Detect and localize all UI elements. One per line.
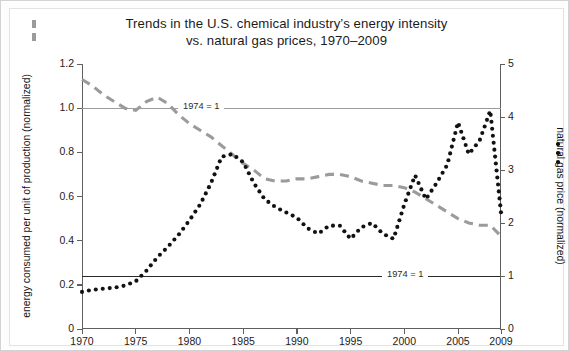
chart-figure: Trends in the U.S. chemical industry’s e… — [0, 0, 569, 351]
gas-price-data-point — [94, 287, 98, 291]
bottom-tick-label: 1990 — [272, 335, 322, 347]
gas-price-data-point — [149, 263, 153, 267]
gas-price-data-point — [101, 287, 105, 291]
right-tick-mark — [500, 64, 505, 65]
bottom-tick-mark — [243, 329, 244, 334]
gas-price-data-point — [144, 269, 148, 273]
bottom-tick-mark — [82, 329, 83, 334]
left-tick-mark — [77, 108, 82, 109]
gas-price-data-point — [361, 224, 365, 228]
gas-price-data-point — [247, 171, 251, 175]
gas-price-data-point — [325, 225, 329, 229]
gas-price-data-point — [444, 165, 448, 169]
gas-price-data-point — [448, 151, 452, 155]
gas-price-data-point — [483, 124, 487, 128]
right-tick-label: 5 — [508, 57, 548, 69]
gas-price-data-point — [414, 175, 418, 179]
gas-price-data-point — [404, 198, 408, 202]
right-axis-title: natural gas price (normalized) — [555, 127, 566, 264]
gas-price-data-point — [494, 162, 498, 166]
gas-price-data-point — [207, 185, 211, 189]
gas-price-data-point — [139, 274, 143, 278]
gas-price-data-point — [492, 141, 496, 145]
gas-price-data-point — [204, 191, 208, 195]
gas-price-data-point — [433, 183, 437, 187]
left-tick-mark — [77, 196, 82, 197]
gas-price-data-point — [319, 230, 323, 234]
gas-price-data-point — [218, 159, 222, 163]
gas-price-data-point — [313, 230, 317, 234]
gas-price-data-point — [419, 187, 423, 191]
right-tick-label: 3 — [508, 163, 548, 175]
gas-price-data-point — [266, 200, 270, 204]
gas-price-data-point — [464, 143, 468, 147]
gas-price-data-point — [498, 203, 502, 207]
chart-title: Trends in the U.S. chemical industry’s e… — [10, 15, 563, 49]
gas-price-data-point — [250, 177, 254, 181]
gas-price-data-point — [489, 113, 493, 117]
bottom-tick-mark — [501, 329, 502, 334]
gas-price-data-point — [495, 168, 499, 172]
gas-price-data-point — [244, 165, 248, 169]
gas-price-data-point — [272, 204, 276, 208]
gas-price-data-point — [108, 286, 112, 290]
gas-price-data-point — [121, 284, 125, 288]
gas-price-data-point — [497, 196, 501, 200]
gas-price-data-point — [368, 222, 372, 226]
gas-price-data-point — [384, 233, 388, 237]
gas-price-data-point — [172, 238, 176, 242]
gas-price-data-point — [493, 155, 497, 159]
bottom-tick-mark — [135, 329, 136, 334]
right-tick-label: 2 — [508, 216, 548, 228]
gas-price-data-point — [499, 210, 503, 214]
gas-price-data-point — [491, 134, 495, 138]
gas-price-data-point — [215, 166, 219, 170]
right-tick-mark — [500, 223, 505, 224]
gas-price-data-point — [378, 229, 382, 233]
gas-price-data-point — [338, 224, 342, 228]
gas-price-data-point — [261, 195, 265, 199]
gas-price-data-point — [497, 189, 501, 193]
gas-price-data-point — [115, 285, 119, 289]
gas-price-data-point — [168, 243, 172, 247]
right-tick-label: 0 — [508, 322, 548, 334]
gas-price-data-point — [478, 138, 482, 142]
right-tick-mark — [500, 276, 505, 277]
gas-price-data-point — [234, 155, 238, 159]
gas-price-data-point — [181, 227, 185, 231]
gas-price-data-point — [342, 229, 346, 233]
right-tick-label: 1 — [508, 269, 548, 281]
bottom-tick-mark — [350, 329, 351, 334]
left-tick-mark — [77, 64, 82, 65]
gas-price-data-point — [189, 215, 193, 219]
series-energy-intensity — [82, 79, 501, 236]
left-tick-label: 0 — [34, 322, 74, 334]
bottom-tick-label: 2000 — [379, 335, 429, 347]
bottom-tick-label: 1970 — [57, 335, 107, 347]
gas-price-data-point — [307, 227, 311, 231]
gas-price-data-point — [450, 145, 454, 149]
bottom-tick-label: 1975 — [111, 335, 161, 347]
gas-price-data-point — [240, 159, 244, 163]
gas-price-data-point — [284, 210, 288, 214]
gas-price-data-point — [485, 118, 489, 122]
plot-area: 1974 = 1 1974 = 1 energy consumed per un… — [82, 64, 501, 329]
left-tick-mark — [77, 240, 82, 241]
right-tick-label: 4 — [508, 110, 548, 122]
gas-price-data-point — [446, 158, 450, 162]
right-tick-mark — [500, 170, 505, 171]
gas-price-data-point — [197, 204, 201, 208]
gas-price-data-point — [134, 279, 138, 283]
gas-price-data-point — [222, 154, 226, 158]
gas-price-data-point — [212, 172, 216, 176]
gas-price-data-point — [469, 149, 473, 153]
legend-dashed-marker-energy — [32, 20, 36, 46]
series-natural-gas-price — [80, 111, 503, 294]
left-tick-label: 1.2 — [34, 57, 74, 69]
bottom-tick-label: 1985 — [218, 335, 268, 347]
gas-price-data-point — [409, 185, 413, 189]
gas-price-data-point — [390, 236, 394, 240]
chart-title-line-2: vs. natural gas prices, 1970–2009 — [10, 32, 563, 49]
left-tick-label: 0.2 — [34, 278, 74, 290]
gas-price-data-point — [489, 120, 493, 124]
